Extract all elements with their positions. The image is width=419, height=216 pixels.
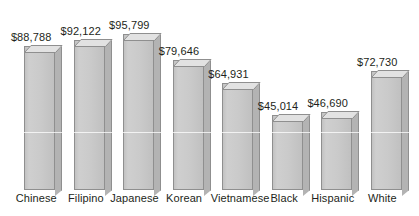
value-label: $79,646 (159, 45, 199, 57)
bar-front-face (272, 115, 303, 190)
bar-side-face (154, 34, 161, 196)
bar-column (123, 34, 154, 190)
bar-front-face (222, 83, 253, 190)
bar-front-face (74, 40, 105, 190)
bar-side-face (352, 112, 359, 196)
bar-column (272, 115, 303, 190)
bar-column (74, 40, 105, 190)
bar-front-face (123, 34, 154, 190)
bar-side-face (105, 40, 112, 196)
value-label: $88,788 (11, 31, 51, 43)
bar-front-face (371, 71, 402, 190)
bar-front-face (173, 60, 204, 190)
bar-front-face (24, 46, 55, 190)
value-label: $46,690 (307, 97, 347, 109)
bar-column (222, 83, 253, 190)
bar-side-face (55, 46, 62, 196)
bar-column (321, 112, 352, 190)
value-label: $45,014 (258, 100, 298, 112)
bar-column (24, 46, 55, 190)
bar-front-face (321, 112, 352, 190)
bar-side-face (303, 115, 310, 196)
value-label: $72,730 (357, 56, 397, 68)
bar-column (173, 60, 204, 190)
value-label: $95,799 (109, 19, 149, 31)
value-label: $92,122 (60, 25, 100, 37)
value-label: $64,931 (208, 68, 248, 80)
bar-side-face (402, 71, 409, 196)
category-label-white: White (351, 192, 413, 204)
bar-side-face (204, 60, 211, 196)
bar-chart: $88,788Chinese$92,122Filipino$95,799Japa… (0, 0, 419, 216)
plot-area: $88,788Chinese$92,122Filipino$95,799Japa… (0, 0, 419, 216)
bar-column (371, 71, 402, 190)
